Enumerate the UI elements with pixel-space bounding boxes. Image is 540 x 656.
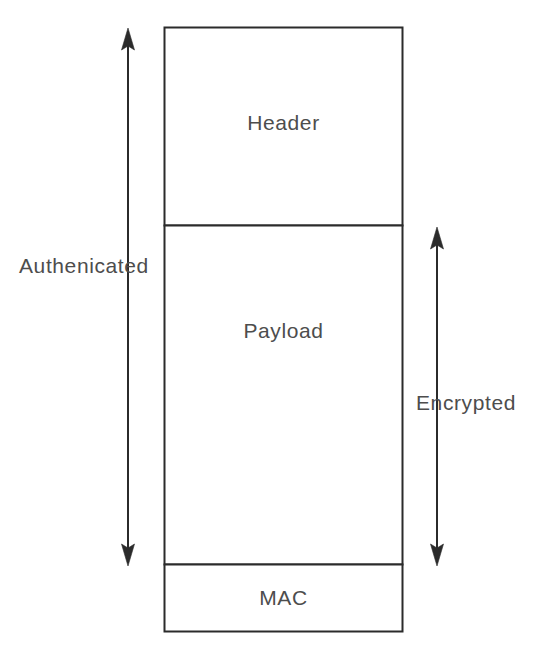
packet-structure-diagram: Header Payload MAC Authenicated Encrypte… xyxy=(0,0,540,656)
authenticated-annotation-label: Authenicated xyxy=(19,254,149,278)
authenticated-arrow xyxy=(122,28,135,566)
mac-field-label: MAC xyxy=(164,586,403,610)
payload-field-box xyxy=(165,226,403,565)
encrypted-annotation-label: Encrypted xyxy=(416,391,516,415)
header-field-label: Header xyxy=(164,111,403,135)
payload-field-label: Payload xyxy=(164,319,403,343)
